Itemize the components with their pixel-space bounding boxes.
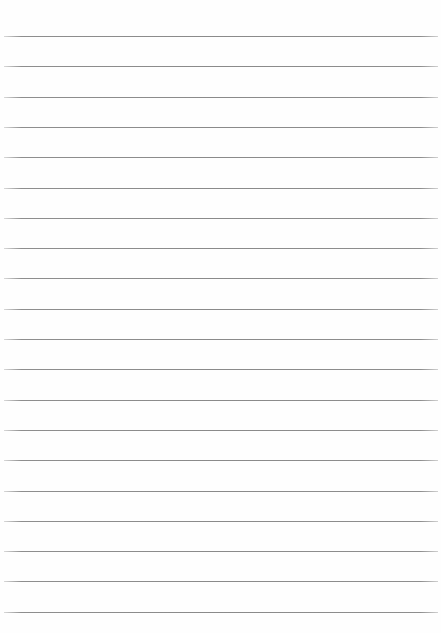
ruled-line <box>4 521 438 522</box>
ruled-line <box>4 369 438 370</box>
ruled-line <box>4 339 438 340</box>
ruled-line <box>4 127 438 128</box>
ruled-line <box>4 97 438 98</box>
ruled-line <box>4 36 438 37</box>
ruled-line <box>4 218 438 219</box>
ruled-line <box>4 400 438 401</box>
ruled-line <box>4 66 438 67</box>
ruled-line <box>4 491 438 492</box>
ruled-line <box>4 188 438 189</box>
lined-paper-sheet <box>0 0 441 633</box>
ruled-line <box>4 430 438 431</box>
ruled-line <box>4 248 438 249</box>
ruled-line <box>4 309 438 310</box>
ruled-line <box>4 551 438 552</box>
ruled-line <box>4 612 438 613</box>
ruled-line <box>4 278 438 279</box>
ruled-line <box>4 460 438 461</box>
ruled-line <box>4 157 438 158</box>
ruled-line <box>4 581 438 582</box>
